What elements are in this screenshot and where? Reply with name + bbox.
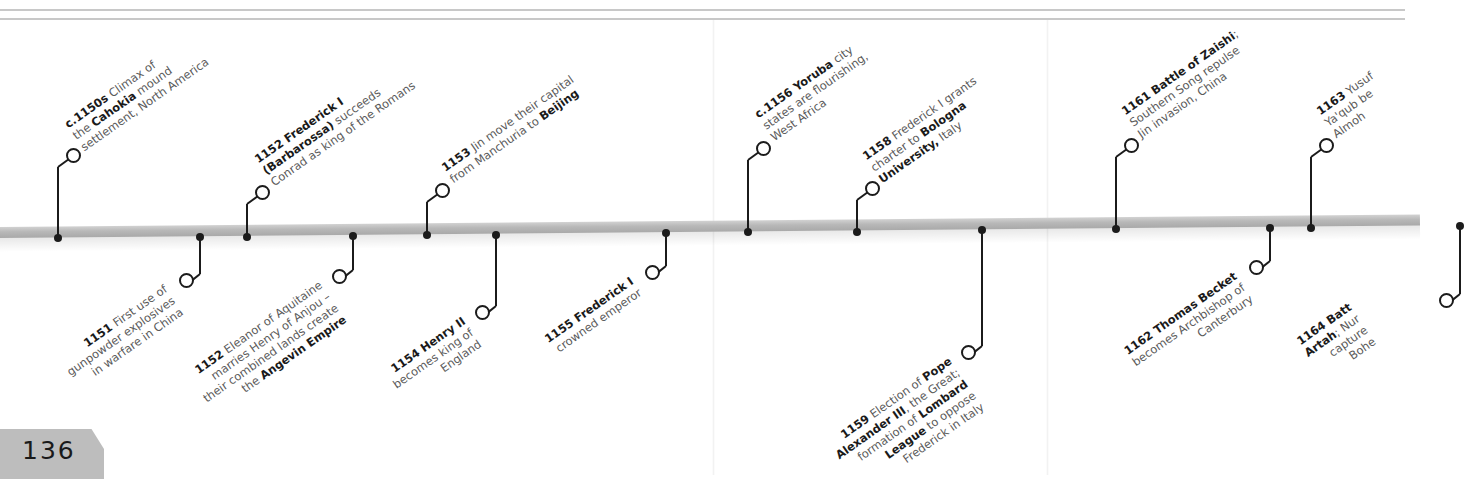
timeline-event-e1164: 1164 BattArtah; NurcaptureBohe — [1293, 300, 1378, 383]
pin-ring-icon — [1439, 293, 1454, 308]
pin-ring-icon — [1319, 138, 1334, 153]
page-fold-line — [1046, 20, 1049, 475]
page-number: 136 — [22, 436, 76, 465]
timeline-event-e1153: 1153 Jin move their capitalfrom Manchuri… — [439, 72, 585, 186]
pin-stem — [199, 237, 201, 274]
timeline-event-e1161: 1161 Battle of Zaishi;Southern Song repu… — [1119, 27, 1257, 141]
timeline-event-e1159: 1159 Election of PopeAlexander III, the … — [825, 354, 987, 483]
pin-ring-icon — [475, 305, 490, 320]
pin-stem — [426, 202, 428, 235]
timeline-event-e1151: 1151 First use ofgunpowder explosivesin … — [57, 282, 186, 390]
pin-ring-icon — [1124, 138, 1139, 153]
pin-stem — [856, 200, 858, 232]
timeline-event-e1156: c.1156 Yoruba citystates are flourishing… — [752, 38, 879, 144]
timeline-event-e1162: 1162 Thomas Becketbecomes Archbishop ofC… — [1122, 269, 1256, 381]
event-text-line: becomes Archbishop of — [1130, 280, 1248, 369]
page-fold-line — [712, 20, 715, 475]
pin-ring-icon — [179, 273, 194, 288]
timeline-event-e1152b: 1152 Eleanor of Aquitainemarries Henry o… — [184, 278, 349, 417]
event-text-line: Southern Song repulse — [1127, 38, 1249, 129]
top-rule — [0, 9, 1405, 11]
timeline-bar — [0, 215, 1420, 239]
pin-ring-icon — [332, 269, 347, 284]
pin-stem — [495, 235, 497, 306]
event-text-line: charter to Bologna — [868, 85, 987, 174]
pin-ring-icon — [865, 181, 880, 196]
pin-stem — [981, 230, 983, 346]
timeline-event-e1158: 1158 Frederick I grantscharter to Bologn… — [860, 74, 995, 186]
event-text-line: (Barbarossa) succeeds — [260, 67, 410, 178]
pin-ring-icon — [1249, 260, 1264, 275]
event-text-line: from Manchuria to Beijing — [447, 84, 584, 186]
pin-stem — [246, 204, 248, 237]
pin-ring-icon — [756, 141, 771, 156]
pin-stem — [747, 160, 749, 232]
event-text-segment: Jin move their capital — [465, 72, 576, 156]
pin-ring-icon — [961, 345, 976, 360]
pin-stem — [1310, 157, 1312, 228]
timeline-event-e1150s: c.1150s Climax ofthe Cahokia moundsettle… — [62, 32, 211, 154]
pin-stem — [352, 236, 354, 270]
event-text-line: gunpowder explosives — [65, 293, 178, 378]
timeline-event-e1154: 1154 Henry IIbecomes king ofEngland — [382, 314, 484, 403]
pin-ring-icon — [66, 148, 81, 163]
timeline-event-e1163: 1163 YusufYa'qub beAlmoh — [1314, 69, 1392, 141]
event-text-segment: becomes Archbishop of — [1130, 280, 1248, 369]
pin-stem — [1459, 226, 1461, 294]
pin-ring-icon — [645, 265, 660, 280]
event-text-line: 1153 Jin move their capital — [439, 72, 576, 174]
timeline-event-e1152a: 1152 Frederick I(Barbarossa) succeedsCon… — [252, 55, 418, 189]
pin-ring-icon — [255, 185, 270, 200]
event-text-segment: Southern Song repulse — [1127, 43, 1242, 130]
pin-stem — [1269, 228, 1271, 261]
event-text-line: the Cahokia mound — [70, 43, 203, 142]
timeline-event-e1155: 1155 Frederick Icrowned emperor — [542, 274, 644, 357]
pin-stem — [665, 233, 667, 266]
pin-ring-icon — [435, 183, 450, 198]
pin-stem — [1115, 157, 1117, 229]
pin-stem — [57, 167, 59, 238]
top-rule-inner — [0, 18, 1405, 20]
